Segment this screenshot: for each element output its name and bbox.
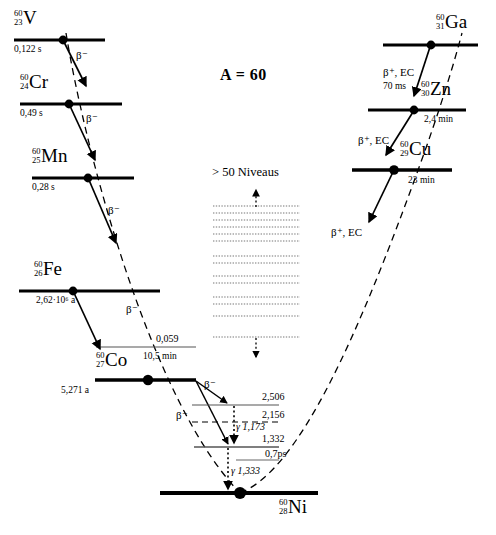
nuclide-symbol-cr: Cr xyxy=(29,72,48,91)
nuclide-az-co: 60 27 xyxy=(96,351,105,369)
level-bar-cu xyxy=(352,165,452,175)
gamma-label-1333: γ 1,333 xyxy=(231,465,260,476)
nuclide-symbol-ni: Ni xyxy=(288,497,307,516)
co-isomer-halflife: 10,5 min xyxy=(143,351,177,361)
halflife-mn: 0,28 s xyxy=(32,182,55,192)
decay-arrow-cu-to-ni xyxy=(369,172,393,222)
nuclide-label-co: 60 27 Co xyxy=(96,350,127,369)
nuclide-az-zn: 60 30 xyxy=(421,80,430,98)
decay-label-v-cr: β⁻ xyxy=(76,49,88,62)
halflife-fe: 2,62·10⁶ a xyxy=(36,295,75,305)
nuclide-label-cr: 60 24 Cr xyxy=(20,72,48,91)
halflife-cr: 0,49 s xyxy=(20,108,43,118)
nuclide-label-cu: 60 29 Cu xyxy=(400,139,431,158)
nuclide-symbol-mn: Mn xyxy=(41,146,67,165)
nuclide-az-cu: 60 29 xyxy=(400,140,409,158)
halflife-ga: 70 ms xyxy=(383,81,406,91)
nuclide-label-ga: 60 31 Ga xyxy=(436,12,467,31)
halflife-zn: 2,4 min xyxy=(424,114,453,124)
ni-level-energy-2156: 2,156 xyxy=(262,409,285,420)
levels-note: > 50 Niveaus xyxy=(212,165,279,180)
nuclide-az-ga: 60 31 xyxy=(436,13,445,31)
nuclide-label-v: 60 23 V xyxy=(14,8,37,27)
co-isomer-energy: 0,059 xyxy=(156,333,179,344)
nuclide-symbol-fe: Fe xyxy=(43,259,62,278)
nuclide-symbol-cu: Cu xyxy=(409,139,431,158)
decay-label-cr-mn: β⁻ xyxy=(86,112,98,125)
decay-label-zn-cu: β⁺, EC xyxy=(358,134,389,147)
nuclide-az-mn: 60 25 xyxy=(32,147,41,165)
nuclide-az-v: 60 23 xyxy=(14,9,23,27)
nuclide-label-fe: 60 26 Fe xyxy=(34,259,62,278)
nuclide-label-ni: 60 28 Ni xyxy=(279,497,307,516)
halflife-cu: 23 min xyxy=(408,175,435,185)
nuclide-label-mn: 60 25 Mn xyxy=(32,146,67,165)
ni-level-halflife-1332: 0,7ps xyxy=(265,448,286,459)
gamma-label-1173: γ 1,173 xyxy=(236,421,265,432)
decay-label-co-ni-b: β⁻ xyxy=(176,409,188,422)
nuclide-symbol-co: Co xyxy=(105,350,127,369)
decay-label-cu-ni: β⁺, EC xyxy=(331,226,362,239)
ni-level-energy-1332: 1,332 xyxy=(262,433,285,444)
ni-level-energy-2506: 2,506 xyxy=(262,391,285,402)
decay-label-fe-co: β⁻ xyxy=(126,303,138,316)
nuclide-az-cr: 60 24 xyxy=(20,73,29,91)
nuclide-symbol-zn: Zn xyxy=(430,79,451,98)
nuclide-az-ni: 60 28 xyxy=(279,498,288,516)
decay-label-co-ni-a: β⁻ xyxy=(204,378,216,391)
nuclide-az-fe: 60 26 xyxy=(34,260,43,278)
page-title: A = 60 xyxy=(220,66,267,84)
decay-scheme-diagram: A = 60 > 50 Niveaus 60 23 V 0,122 s 60 2… xyxy=(0,0,496,535)
halflife-v: 0,122 s xyxy=(14,44,41,54)
decay-label-ga-zn: β⁺, EC xyxy=(383,66,414,79)
level-bar-co xyxy=(95,375,196,385)
nuclide-label-zn: 60 30 Zn xyxy=(421,79,451,98)
decay-arrow-fe-to-co xyxy=(74,293,100,349)
nuclide-symbol-v: V xyxy=(23,8,37,27)
halflife-co: 5,271 a xyxy=(61,385,89,395)
nuclide-symbol-ga: Ga xyxy=(445,12,467,31)
decay-label-mn-fe: β⁻ xyxy=(108,204,120,217)
ni-many-levels-stack xyxy=(213,206,300,337)
